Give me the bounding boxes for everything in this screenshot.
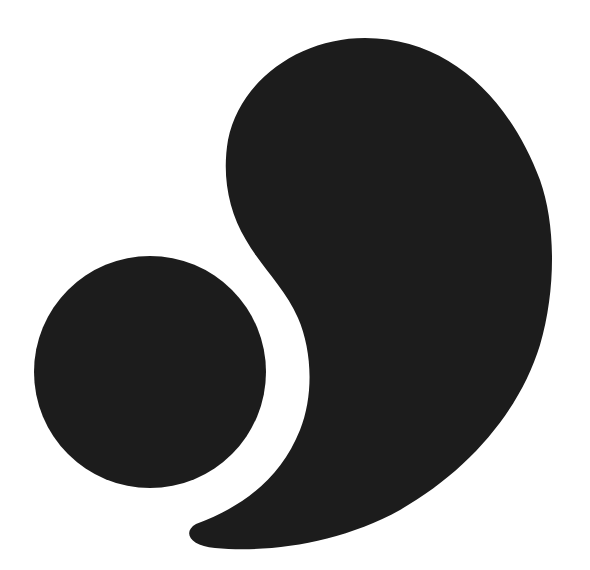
logo-mark — [0, 0, 590, 570]
logo-canvas: Circle and comma logo mark — [0, 0, 590, 570]
circle-dot-shape — [34, 256, 266, 488]
